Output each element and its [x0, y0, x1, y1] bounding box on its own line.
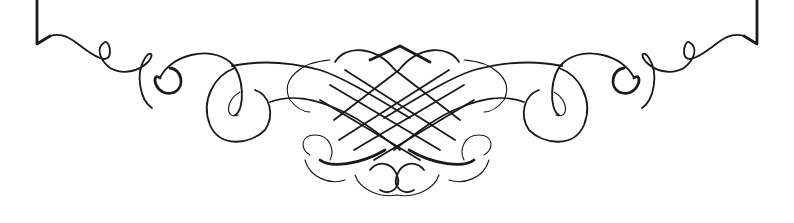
right-flourish	[384, 0, 757, 182]
ornament-canvas	[0, 0, 794, 223]
left-flourish	[37, 0, 410, 182]
lattice-knot	[320, 46, 474, 196]
calligraphic-flourish-icon	[0, 0, 794, 223]
